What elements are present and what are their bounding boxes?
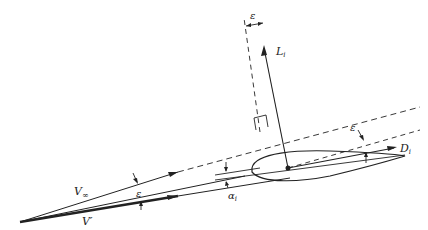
alpha-label: αi: [228, 190, 237, 203]
freestream-direction-line: [20, 107, 420, 222]
epsilon-right-label: ε: [350, 122, 355, 133]
right-angle-marker: [254, 115, 268, 130]
freestream-velocity-vector: [20, 175, 245, 222]
top-epsilon-bracket: [246, 22, 263, 27]
lift-arrowhead-icon: [261, 45, 267, 56]
lift-label: Li: [275, 45, 286, 59]
freestream-label: V∞: [74, 185, 89, 200]
freestream-normal-line: [244, 18, 260, 132]
drag-label: Di: [399, 142, 411, 156]
local-velocity-label: V′: [82, 215, 93, 228]
airfoil-induced-drag-diagram: Li ε Di ε ε αi V∞ V′: [0, 0, 428, 230]
epsilon-left-label: ε: [136, 188, 141, 199]
freestream-arrowhead-icon: [168, 172, 178, 177]
drag-arrowhead-icon: [387, 146, 397, 151]
chord-line: [215, 155, 405, 180]
local-velocity-vector: [20, 178, 290, 222]
airfoil-section: [252, 151, 405, 181]
induced-lift-vector: [261, 45, 288, 168]
epsilon-top-label: ε: [250, 10, 255, 21]
